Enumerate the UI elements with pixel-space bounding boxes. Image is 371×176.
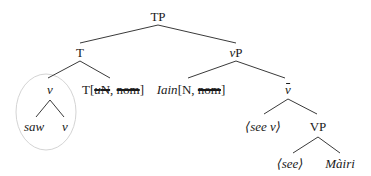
node-vp: VP (310, 119, 327, 134)
highlight-circle (16, 74, 76, 150)
node-see-v-copy: ⟨see v⟩ (245, 119, 281, 134)
iain-features-close: ] (221, 82, 225, 97)
node-saw: saw (24, 119, 44, 134)
node-t-bar: T (76, 45, 84, 60)
edge-vbar-seev (264, 99, 288, 114)
node-vp-small: vP (229, 45, 242, 60)
node-v-head: v (47, 82, 53, 97)
edge-tp-t (80, 25, 158, 43)
iain-features-open: [N, (178, 82, 198, 97)
t-feature-n: N (101, 82, 110, 97)
edge-v-saw (36, 100, 50, 117)
t-feature-un: uN (94, 82, 110, 97)
edge-t-v (48, 61, 80, 78)
t-head-label: T (82, 82, 90, 97)
edge-vbar-vp (288, 99, 317, 114)
node-iain: Iain[N, nom] (157, 82, 226, 97)
node-v-bar: v (285, 82, 291, 97)
iain-name: Iain (157, 82, 178, 97)
iain-feature-nom: nom (198, 82, 221, 97)
edge-vp-mairi (318, 137, 340, 153)
node-t-head: T[uN, nom] (82, 82, 144, 97)
edge-v-vleaf (50, 100, 64, 117)
v-bar-label: v (285, 82, 291, 97)
t-feature-nom: nom (117, 82, 140, 97)
node-see-copy: ⟨see⟩ (277, 156, 304, 171)
node-mairi: Màiri (325, 156, 355, 171)
node-tp: TP (150, 9, 165, 24)
vp-small-p: P (235, 45, 242, 60)
edge-t-thead (80, 61, 110, 78)
edge-vp-iain (188, 61, 236, 78)
edge-tp-vp (158, 25, 236, 43)
t-features-close: ] (140, 82, 144, 97)
edge-vp-see (293, 137, 318, 153)
node-v-leaf: v (62, 119, 68, 134)
edge-vp-vbar (236, 61, 285, 78)
